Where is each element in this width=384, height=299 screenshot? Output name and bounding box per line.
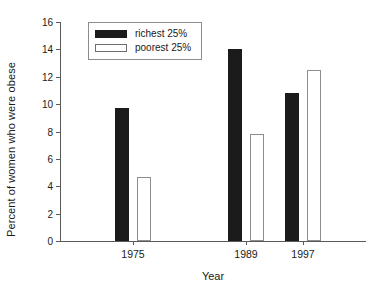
y-tick-mark bbox=[56, 49, 60, 50]
y-tick-mark bbox=[56, 77, 60, 78]
y-tick-mark bbox=[56, 241, 60, 242]
legend-label-richest: richest 25% bbox=[135, 29, 187, 39]
bar-1989-richest bbox=[228, 49, 242, 241]
y-tick-label: 10 bbox=[42, 99, 53, 110]
x-axis-line bbox=[60, 241, 366, 242]
y-tick-mark bbox=[56, 104, 60, 105]
bar-1989-poorest bbox=[250, 134, 264, 241]
x-tick-mark bbox=[246, 241, 247, 245]
bar-1997-poorest bbox=[307, 70, 321, 241]
chart-legend: richest 25% poorest 25% bbox=[88, 22, 202, 60]
y-tick-label: 6 bbox=[47, 153, 53, 164]
legend-item-richest: richest 25% bbox=[95, 27, 195, 41]
x-tick-mark bbox=[133, 241, 134, 245]
y-tick-label: 2 bbox=[47, 208, 53, 219]
legend-label-poorest: poorest 25% bbox=[135, 43, 191, 53]
x-axis-title: Year bbox=[60, 270, 366, 282]
y-tick-label: 8 bbox=[47, 126, 53, 137]
legend-swatch-richest-icon bbox=[95, 30, 127, 38]
y-tick-label: 12 bbox=[42, 71, 53, 82]
y-tick-label: 16 bbox=[42, 17, 53, 28]
y-tick-label: 0 bbox=[47, 236, 53, 247]
y-tick-mark bbox=[56, 186, 60, 187]
y-tick-label: 14 bbox=[42, 44, 53, 55]
bar-1997-richest bbox=[285, 93, 299, 241]
y-axis-line bbox=[60, 22, 61, 241]
legend-swatch-poorest-icon bbox=[95, 44, 127, 52]
y-tick-mark bbox=[56, 22, 60, 23]
bar-chart-figure: Percent of women who were obese 02468101… bbox=[0, 0, 384, 299]
x-tick-label: 1989 bbox=[234, 248, 257, 260]
x-tick-mark bbox=[303, 241, 304, 245]
bar-1975-richest bbox=[115, 108, 129, 241]
legend-item-poorest: poorest 25% bbox=[95, 41, 195, 55]
bar-1975-poorest bbox=[137, 177, 151, 241]
y-axis-title: Percent of women who were obese bbox=[0, 0, 22, 299]
y-tick-mark bbox=[56, 132, 60, 133]
x-tick-label: 1997 bbox=[291, 248, 314, 260]
y-tick-mark bbox=[56, 214, 60, 215]
y-tick-label: 4 bbox=[47, 181, 53, 192]
x-tick-label: 1975 bbox=[121, 248, 144, 260]
y-tick-mark bbox=[56, 159, 60, 160]
